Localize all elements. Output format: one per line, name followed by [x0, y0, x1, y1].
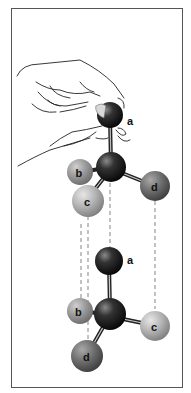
bottom-atom-a	[95, 247, 123, 275]
bottom-label-b: b	[75, 306, 82, 318]
top-label-b: b	[76, 167, 83, 179]
molecule-figure: b d c a	[0, 0, 191, 393]
top-label-c: c	[84, 196, 90, 208]
bottom-central-atom	[94, 298, 126, 330]
bottom-label-c: c	[151, 321, 157, 333]
bottom-label-d: d	[83, 351, 90, 363]
top-label-d: d	[151, 181, 158, 193]
bottom-label-a: a	[127, 254, 134, 266]
top-central-atom	[96, 152, 126, 182]
top-label-a: a	[127, 115, 134, 127]
